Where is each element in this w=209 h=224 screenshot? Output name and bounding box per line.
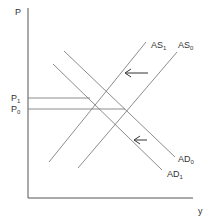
as1-label: AS1 bbox=[151, 40, 167, 51]
ad-shift-arrow-icon bbox=[134, 136, 147, 144]
as-ad-diagram: P y P1 P0 AS1 AS0 AD0 AD1 bbox=[0, 0, 209, 224]
p1-label: P1 bbox=[11, 93, 21, 104]
as1-curve bbox=[49, 42, 146, 162]
ad0-curve bbox=[64, 51, 175, 157]
as-shift-arrow-icon bbox=[125, 69, 148, 77]
ad1-label: AD1 bbox=[167, 169, 184, 180]
as0-curve bbox=[78, 52, 177, 168]
as0-label: AS0 bbox=[178, 40, 194, 51]
y-axis-label: P bbox=[15, 7, 21, 17]
p0-label: P0 bbox=[11, 104, 21, 115]
ad1-curve bbox=[53, 64, 162, 170]
ad0-label: AD0 bbox=[178, 154, 195, 165]
x-axis-label: y bbox=[198, 206, 203, 216]
